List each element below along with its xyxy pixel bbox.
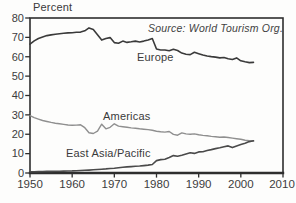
y-tick-label: 10 [12, 147, 24, 159]
y-tick-label: 60 [12, 51, 24, 63]
source-note: Source: World Tourism Org. [148, 22, 283, 34]
x-tick-label: 1950 [17, 178, 43, 190]
x-tick-label: 2010 [269, 178, 295, 190]
series-label-east-asia-pacific: East Asia/Pacific [66, 147, 151, 159]
series-label-europe: Europe [137, 51, 174, 63]
y-tick-label: 20 [12, 128, 24, 140]
y-tick-label: 30 [12, 109, 24, 121]
x-tick-label: 1990 [186, 178, 212, 190]
series-label-americas: Americas [103, 110, 150, 122]
x-tick-label: 1960 [59, 178, 85, 190]
y-tick-label: 50 [12, 70, 24, 82]
x-tick-label: 1970 [102, 178, 128, 190]
y-axis-unit-label: Percent [33, 1, 72, 13]
y-tick-label: 0 [18, 167, 24, 179]
x-tick-label: 1980 [144, 178, 170, 190]
tourism-share-chart: 01020304050607080 1950196019701980199020… [0, 0, 296, 203]
x-axis-tick-labels: 1950196019701980199020002010 [17, 178, 295, 190]
y-tick-label: 80 [12, 12, 24, 24]
y-axis-tick-labels: 01020304050607080 [12, 12, 24, 179]
y-tick-label: 40 [12, 89, 24, 101]
y-tick-label: 70 [12, 31, 24, 43]
x-tick-label: 2000 [228, 178, 254, 190]
